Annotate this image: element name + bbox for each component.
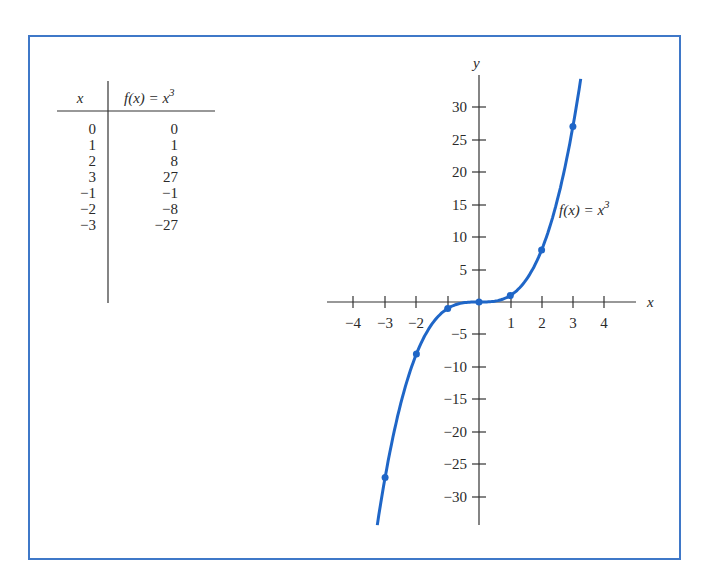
svg-text:−5: −5	[451, 326, 467, 342]
table-cell-x: −3	[80, 217, 96, 233]
table-header-x: x	[76, 90, 84, 106]
table-cell-fx: −27	[155, 217, 179, 233]
table-cell-fx: 0	[171, 121, 179, 137]
svg-text:4: 4	[600, 315, 608, 331]
svg-text:30: 30	[452, 99, 467, 115]
svg-text:3: 3	[569, 315, 577, 331]
svg-text:−10: −10	[444, 359, 467, 375]
x-axis-label: x	[646, 294, 654, 310]
table-cell-x: 2	[89, 153, 97, 169]
svg-text:−25: −25	[444, 456, 467, 472]
table-cell-x: 0	[89, 121, 97, 137]
table-cell-fx: −1	[162, 185, 178, 201]
value-table: x f(x) = x3 0 0 1 1 2 8 3 27 −1 −1 −2 −8…	[57, 81, 215, 303]
svg-text:15: 15	[452, 197, 467, 213]
svg-text:−20: −20	[444, 424, 467, 440]
svg-text:−3: −3	[377, 315, 393, 331]
table-cell-fx: 1	[171, 137, 179, 153]
svg-text:10: 10	[452, 229, 467, 245]
svg-text:−2: −2	[408, 315, 424, 331]
data-point	[476, 299, 483, 306]
data-point	[444, 305, 451, 312]
svg-text:25: 25	[452, 132, 467, 148]
table-cell-x: 3	[89, 169, 97, 185]
figure-canvas: x f(x) = x3 0 0 1 1 2 8 3 27 −1 −1 −2 −8…	[0, 0, 714, 585]
svg-text:−30: −30	[444, 489, 467, 505]
svg-text:1: 1	[507, 315, 515, 331]
data-point	[507, 292, 514, 299]
table-cell-x: −1	[80, 185, 96, 201]
svg-text:−15: −15	[444, 391, 467, 407]
table-cell-x: −2	[80, 201, 96, 217]
svg-text:5: 5	[460, 262, 468, 278]
svg-text:2: 2	[538, 315, 546, 331]
table-cell-x: 1	[89, 137, 97, 153]
table-cell-fx: −8	[162, 201, 178, 217]
table-cell-fx: 8	[171, 153, 179, 169]
data-point	[538, 247, 545, 254]
table-rows: 0 0 1 1 2 8 3 27 −1 −1 −2 −8 −3 −27	[80, 121, 178, 233]
table-cell-fx: 27	[163, 169, 179, 185]
svg-text:20: 20	[452, 164, 467, 180]
x-tick-labels: −4 −3 −2 1 2 3 4	[345, 315, 608, 331]
curve-label: f(x) = x3	[559, 198, 610, 219]
svg-text:−4: −4	[345, 315, 361, 331]
data-point	[569, 123, 576, 130]
data-point	[382, 474, 389, 481]
table-header-fx: f(x) = x3	[124, 86, 175, 107]
data-point	[413, 351, 420, 358]
y-axis-label: y	[471, 55, 480, 71]
